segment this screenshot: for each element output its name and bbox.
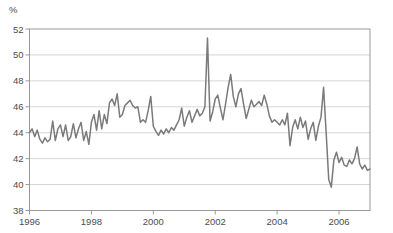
y-tick-label: 40 bbox=[13, 179, 24, 190]
y-tick-label: 48 bbox=[13, 75, 24, 86]
x-tick-label: 2004 bbox=[267, 216, 288, 227]
y-tick-label: 44 bbox=[13, 127, 24, 138]
chart-canvas: 3840424446485052199619982000200220042006 bbox=[0, 0, 393, 233]
percentage-time-series-chart: % 38404244464850521996199820002002200420… bbox=[0, 0, 393, 233]
x-tick-label: 2006 bbox=[328, 216, 349, 227]
x-tick-label: 1998 bbox=[81, 216, 102, 227]
y-tick-label: 46 bbox=[13, 101, 24, 112]
data-line-series bbox=[30, 38, 371, 187]
x-tick-label: 1996 bbox=[19, 216, 40, 227]
y-tick-label: 38 bbox=[13, 205, 24, 216]
y-tick-label: 42 bbox=[13, 153, 24, 164]
y-tick-label: 52 bbox=[13, 24, 24, 35]
y-tick-label: 50 bbox=[13, 49, 24, 60]
plot-border bbox=[30, 29, 371, 211]
x-tick-label: 2000 bbox=[143, 216, 164, 227]
x-tick-label: 2002 bbox=[205, 216, 226, 227]
